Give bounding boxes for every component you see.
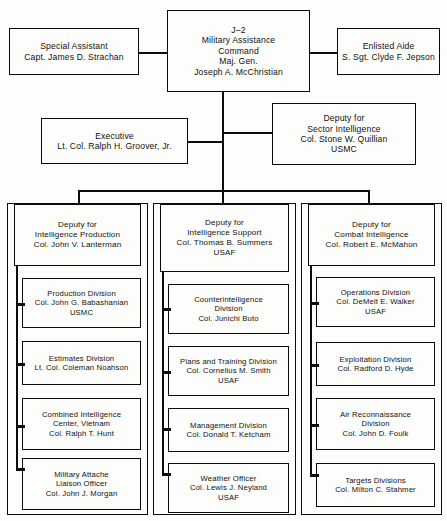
connector-stub-c2-u3 bbox=[162, 428, 171, 431]
connector-stub-c1-u2 bbox=[16, 363, 25, 366]
node-line: USAF bbox=[218, 376, 239, 385]
node-line: Lt. Col. Coleman Noahson bbox=[35, 363, 129, 372]
node-line: Special Assistant bbox=[40, 41, 108, 51]
node-air-reconnaissance-division[interactable]: Air Reconnaissance Division Col. John D.… bbox=[316, 398, 435, 450]
node-management-division[interactable]: Management Division Col. Donald T. Ketch… bbox=[168, 408, 289, 452]
node-deputy-intelligence-production[interactable]: Deputy for Intelligence Production Col. … bbox=[14, 204, 141, 266]
node-line: S. Sgt. Clyde F. Jepson bbox=[342, 52, 435, 62]
connector-spine-column-2 bbox=[162, 272, 164, 476]
node-line: Targets Divisions bbox=[345, 476, 406, 485]
node-line: Intelligence Support bbox=[187, 228, 262, 238]
connector-root-to-enlisted-aide bbox=[310, 52, 338, 54]
connector-bus-drop-left bbox=[78, 190, 80, 204]
node-line: Exploitation Division bbox=[340, 355, 412, 364]
connector-root-to-special-assistant bbox=[138, 52, 167, 54]
connector-spine-to-sector-intelligence bbox=[222, 132, 272, 134]
node-counterintelligence-division[interactable]: Counterintelligence Division Col. Junich… bbox=[168, 284, 289, 334]
node-line: Estimates Division bbox=[49, 354, 115, 363]
node-line: Center, Vietnam bbox=[53, 419, 110, 428]
node-plans-and-training-division[interactable]: Plans and Training Division Col. Corneli… bbox=[168, 346, 289, 396]
node-line: Col. Stone W. Quillian bbox=[301, 134, 388, 144]
node-deputy-intelligence-support[interactable]: Deputy for Intelligence Support Col. Tho… bbox=[160, 204, 289, 272]
node-line: Col. Ralph T. Hunt bbox=[49, 429, 114, 438]
node-deputy-combat-intelligence[interactable]: Deputy for Combat Intelligence Col. Robe… bbox=[308, 204, 435, 266]
node-line: Lt. Col. Ralph H. Groover, Jr. bbox=[57, 141, 171, 151]
node-enlisted-aide[interactable]: Enlisted Aide S. Sgt. Clyde F. Jepson bbox=[337, 28, 440, 75]
node-line: Col. Donald T. Ketcham bbox=[187, 430, 271, 439]
node-line: Command bbox=[218, 46, 259, 56]
node-line: Deputy for bbox=[58, 220, 97, 230]
node-combined-intelligence-center-vietnam[interactable]: Combined Intelligence Center, Vietnam Co… bbox=[22, 398, 141, 450]
node-line: Division bbox=[214, 304, 242, 313]
connector-bus-drop-right bbox=[368, 190, 370, 204]
node-line: Col. John G. Babashanian bbox=[35, 298, 128, 307]
node-weather-officer[interactable]: Weather Officer Col. Lewis J. Neyland US… bbox=[168, 463, 289, 513]
node-line: Enlisted Aide bbox=[363, 41, 415, 51]
connector-stub-c3-u2 bbox=[310, 364, 319, 367]
node-line: Military Attache bbox=[54, 470, 109, 479]
connector-stub-c3-u4 bbox=[310, 474, 319, 477]
node-line: Col. Milton C. Stahmer bbox=[335, 485, 416, 494]
node-line: Col. Cornelius M. Smith bbox=[186, 366, 270, 375]
node-line: Counterintelligence bbox=[194, 295, 263, 304]
node-line: Division bbox=[361, 419, 389, 428]
connector-spine-column-3 bbox=[310, 266, 312, 476]
node-targets-divisions[interactable]: Targets Divisions Col. Milton C. Stahmer bbox=[316, 463, 435, 507]
connector-stub-c2-u1 bbox=[162, 308, 171, 311]
node-line: Liaison Officer bbox=[56, 479, 107, 488]
node-deputy-sector-intelligence[interactable]: Deputy for Sector Intelligence Col. Ston… bbox=[272, 103, 416, 165]
node-special-assistant[interactable]: Special Assistant Capt. James D. Stracha… bbox=[9, 28, 139, 75]
node-line: Production Division bbox=[47, 289, 116, 298]
node-line: Deputy for bbox=[323, 113, 364, 123]
node-line: USAF bbox=[213, 248, 235, 258]
node-line: Col. John V. Lanterman bbox=[34, 240, 122, 250]
node-line: Military Assistance bbox=[202, 35, 276, 45]
node-line: Col. Junichi Buto bbox=[198, 314, 258, 323]
connector-stub-c1-u3 bbox=[16, 425, 25, 428]
node-line: Air Reconnaissance bbox=[340, 410, 411, 419]
node-estimates-division[interactable]: Estimates Division Lt. Col. Coleman Noah… bbox=[22, 341, 141, 385]
node-line: Combat Intelligence bbox=[334, 230, 408, 240]
node-line: USMC bbox=[331, 144, 357, 154]
node-line: Operations Division bbox=[341, 288, 411, 297]
node-line: Col. Lewis J. Neyland bbox=[190, 483, 267, 492]
node-executive[interactable]: Executive Lt. Col. Ralph H. Groover, Jr. bbox=[41, 118, 188, 164]
node-line: Col. John D. Foulk bbox=[343, 429, 409, 438]
node-line: Sector Intelligence bbox=[307, 124, 381, 134]
node-line: Joseph A. McChristian bbox=[194, 67, 283, 77]
node-line: USAF bbox=[218, 493, 239, 502]
node-line: Deputy for bbox=[352, 220, 391, 230]
node-line: Intelligence Production bbox=[35, 230, 120, 240]
node-line: Col. DeMelt E. Walker bbox=[336, 297, 414, 306]
node-line: Plans and Training Division bbox=[180, 357, 277, 366]
node-line: J–2 bbox=[231, 25, 245, 35]
connector-stub-c3-u3 bbox=[310, 424, 319, 427]
connector-stub-c3-u1 bbox=[310, 302, 319, 305]
node-j2-military-assistance-command[interactable]: J–2 Military Assistance Command Maj. Gen… bbox=[167, 10, 310, 92]
node-line: Combined Intelligence bbox=[42, 410, 121, 419]
node-line: Capt. James D. Strachan bbox=[24, 52, 123, 62]
node-production-division[interactable]: Production Division Col. John G. Babasha… bbox=[22, 278, 141, 328]
node-line: Weather Officer bbox=[201, 474, 257, 483]
node-military-attache-liaison-officer[interactable]: Military Attache Liaison Officer Col. Jo… bbox=[22, 458, 141, 510]
node-line: Col. Radford D. Hyde bbox=[337, 364, 413, 373]
node-line: Col. Robert E. McMahon bbox=[326, 240, 418, 250]
node-line: Maj. Gen. bbox=[219, 56, 258, 66]
node-operations-division[interactable]: Operations Division Col. DeMelt E. Walke… bbox=[316, 277, 435, 327]
connector-stub-c1-u4 bbox=[16, 468, 25, 471]
connector-stub-c1-u1 bbox=[16, 303, 25, 306]
connector-spine-column-1 bbox=[16, 266, 18, 470]
node-line: Col. Thomas B. Summers bbox=[177, 238, 273, 248]
node-line: Executive bbox=[95, 131, 134, 141]
connector-stub-c2-u2 bbox=[162, 371, 171, 374]
node-line: USMC bbox=[70, 308, 93, 317]
node-exploitation-division[interactable]: Exploitation Division Col. Radford D. Hy… bbox=[316, 342, 435, 386]
connector-stub-c2-u4 bbox=[162, 473, 171, 476]
connector-bus-drop-center bbox=[222, 190, 224, 204]
node-line: USAF bbox=[365, 307, 386, 316]
node-line: Deputy for bbox=[205, 218, 244, 228]
node-line: Management Division bbox=[190, 421, 267, 430]
org-chart: J–2 Military Assistance Command Maj. Gen… bbox=[0, 0, 447, 521]
node-line: Col. John J. Morgan bbox=[46, 489, 118, 498]
connector-spine-to-executive bbox=[188, 141, 224, 143]
